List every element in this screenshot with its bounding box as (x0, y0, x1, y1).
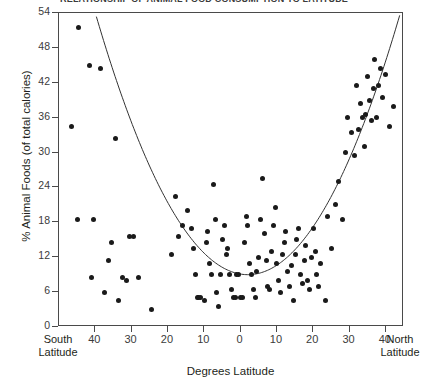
scatter-point (391, 104, 396, 109)
scatter-point (267, 287, 272, 292)
scatter-point (371, 86, 376, 91)
scatter-point (302, 258, 307, 263)
scatter-point (189, 226, 194, 231)
scatter-point (358, 101, 363, 106)
south-label-line1: South (23, 333, 93, 346)
scatter-point (309, 255, 314, 260)
scatter-point (264, 258, 269, 263)
scatter-point (333, 202, 338, 207)
scatter-point (362, 144, 367, 149)
y-tick-label: 24 (10, 179, 50, 191)
scatter-point (213, 217, 218, 222)
y-tick-label: 30 (10, 145, 50, 157)
scatter-point (222, 223, 227, 228)
y-tick-label: 12 (10, 249, 50, 261)
plot-frame (58, 12, 403, 326)
scatter-point (224, 252, 229, 257)
scatter-point (271, 223, 276, 228)
scatter-point (207, 261, 212, 266)
scatter-point (98, 66, 103, 71)
x-axis-left-edge-label: South Latitude (23, 333, 93, 359)
scatter-point (293, 252, 298, 257)
scatter-point (278, 290, 283, 295)
y-tick-label: 48 (10, 40, 50, 52)
scatter-point (356, 127, 361, 132)
scatter-point (287, 284, 292, 289)
scatter-point (329, 246, 334, 251)
scatter-point (300, 281, 305, 286)
scatter-point (113, 136, 118, 141)
north-label-line1: North (365, 333, 428, 346)
plot-area (59, 13, 402, 325)
x-tick-label: 10 (183, 333, 223, 345)
x-tick-label: 30 (111, 333, 151, 345)
scatter-point (106, 258, 111, 263)
y-tick-label: 42 (10, 75, 50, 87)
scatter-point (316, 284, 321, 289)
quadratic-fit-curve (59, 13, 404, 327)
scatter-point (251, 287, 256, 292)
chart-figure: RELATIONSHIP OF ANIMAL FOOD CONSUMPTION … (0, 0, 428, 383)
scatter-point (282, 240, 287, 245)
y-tick-label: 6 (10, 284, 50, 296)
y-tick-label: 0 (10, 319, 50, 331)
scatter-point (193, 272, 198, 277)
scatter-point (273, 205, 278, 210)
scatter-point (229, 287, 234, 292)
south-label-line2: Latitude (23, 346, 93, 359)
y-tick-label: 18 (10, 214, 50, 226)
scatter-point (367, 98, 372, 103)
x-tick-label: 20 (147, 333, 187, 345)
scatter-point (244, 214, 249, 219)
scatter-point (256, 255, 261, 260)
scatter-point (369, 118, 374, 123)
scatter-point (313, 249, 318, 254)
scatter-point (75, 217, 80, 222)
scatter-point (387, 124, 392, 129)
scatter-point (173, 194, 178, 199)
scatter-point (191, 246, 196, 251)
x-axis-right-edge-label: North Latitude (365, 333, 428, 359)
scatter-point (307, 287, 312, 292)
scatter-point (242, 240, 247, 245)
scatter-point (296, 226, 301, 231)
scatter-point (269, 249, 274, 254)
scatter-point (280, 252, 285, 257)
scatter-point (180, 223, 185, 228)
x-tick-label: 10 (256, 333, 296, 345)
scatter-point (274, 261, 279, 266)
y-tick-mark (52, 326, 58, 327)
scatter-point (349, 130, 354, 135)
x-tick-label: 30 (329, 333, 369, 345)
scatter-point (383, 72, 388, 77)
scatter-point (124, 278, 129, 283)
scatter-point (169, 252, 174, 257)
scatter-point (378, 66, 383, 71)
scatter-point (204, 240, 209, 245)
scatter-point (91, 217, 96, 222)
scatter-point (311, 226, 316, 231)
scatter-point (340, 217, 345, 222)
scatter-point (247, 261, 252, 266)
scatter-point (380, 95, 385, 100)
x-tick-label: 20 (292, 333, 332, 345)
north-label-line2: Latitude (365, 346, 428, 359)
x-tick-label: 0 (220, 333, 260, 345)
scatter-point (258, 217, 263, 222)
y-tick-label: 54 (10, 5, 50, 17)
scatter-point (102, 290, 107, 295)
y-tick-label: 36 (10, 110, 50, 122)
scatter-point (318, 261, 323, 266)
scatter-point (211, 182, 216, 187)
x-axis-label: Degrees Latitude (58, 365, 403, 377)
chart-title: RELATIONSHIP OF ANIMAL FOOD CONSUMPTION … (60, 0, 390, 2)
